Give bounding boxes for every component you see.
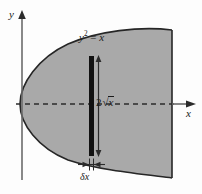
y-axis-label: y <box>9 9 14 20</box>
strip-height-label: 2√x <box>96 96 114 108</box>
radicand-value: x <box>108 96 115 108</box>
strip-element <box>89 56 94 156</box>
equation-variable: x <box>99 31 104 43</box>
curve-equation-label: y2 = x <box>79 31 104 43</box>
radical-group: √x <box>102 96 115 108</box>
strip-width-label: δx <box>80 172 89 182</box>
math-figure: y x y2 = x 2√x δx <box>0 0 202 194</box>
y-axis-arrowhead-icon <box>18 10 26 19</box>
x-axis-label: x <box>186 108 191 119</box>
equation-relation: = <box>88 31 100 43</box>
